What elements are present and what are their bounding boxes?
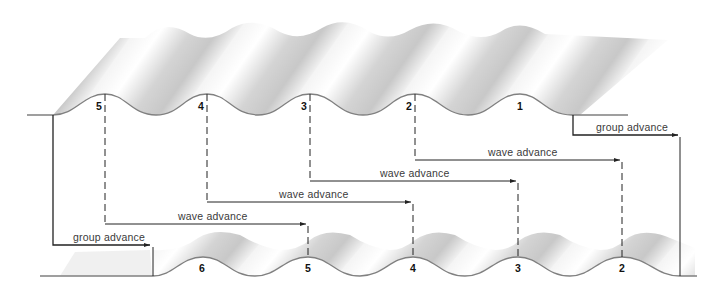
bottom-crest-label-4: 4 <box>410 262 416 274</box>
bottom-crest-label-2: 2 <box>619 262 625 274</box>
wave-advance-2-label: wave advance <box>487 146 558 158</box>
wave-advance-3-label: wave advance <box>379 167 450 179</box>
group-advance-left-label: group advance <box>73 231 145 243</box>
wave-advance-4-label: wave advance <box>278 188 349 200</box>
top-crest-label-5: 5 <box>96 100 102 112</box>
wave-advance-5-label: wave advance <box>177 210 248 222</box>
wave-advance-3-arrow: wave advance <box>310 94 518 257</box>
bottom-crest-label-6: 6 <box>199 262 205 274</box>
group-advance-right-label: group advance <box>596 121 668 133</box>
top-wave-surface <box>27 22 668 115</box>
top-crest-label-1: 1 <box>517 100 523 112</box>
bottom-wave-surface <box>60 232 695 276</box>
top-crest-label-2: 2 <box>406 100 412 112</box>
top-crest-label-3: 3 <box>301 100 307 112</box>
bottom-crest-label-3: 3 <box>515 262 521 274</box>
top-crest-label-4: 4 <box>198 100 204 112</box>
bottom-crest-label-5: 5 <box>305 262 311 274</box>
wave-group-diagram: 5 4 3 2 1 6 5 4 3 2 group advance wave a… <box>0 0 723 294</box>
